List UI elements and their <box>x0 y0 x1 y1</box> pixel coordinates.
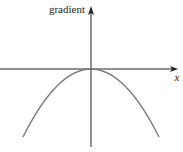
gradient-diagram: gradient x <box>0 0 183 152</box>
x-axis-label: x <box>174 71 180 83</box>
y-axis-label: gradient <box>49 3 85 15</box>
